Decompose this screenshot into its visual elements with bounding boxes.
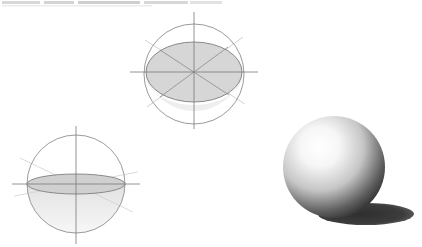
horizon-sphere-construction [12,126,140,244]
caption-remnant-strip [2,1,222,7]
shaded-sphere [283,116,414,225]
tilted-sphere-construction [130,12,258,129]
diagram-canvas [0,0,422,247]
shaded-sphere-body [283,116,385,218]
